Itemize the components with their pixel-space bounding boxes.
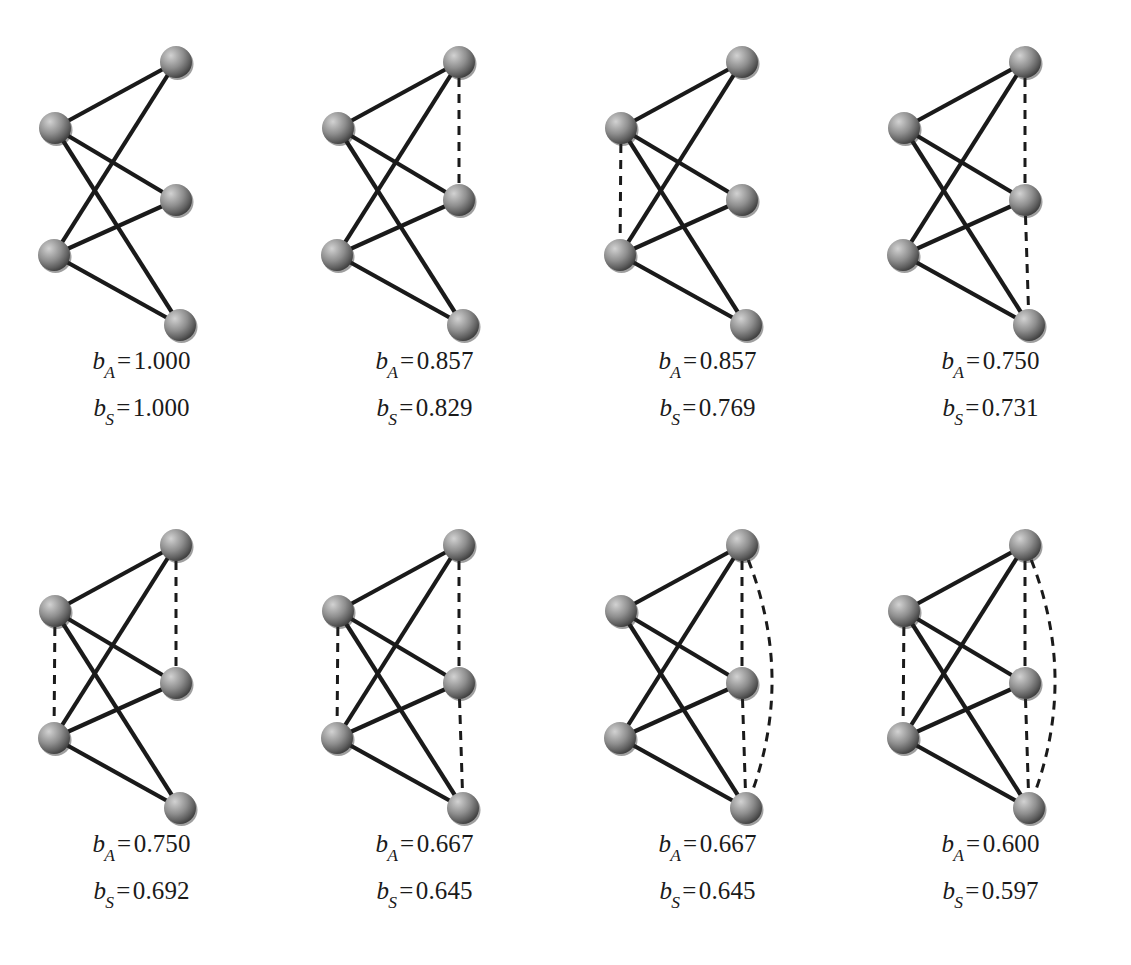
graph-balance-figure: bA=1.000bS=1.000bA=0.857bS=0.829bA=0.857… xyxy=(0,0,1131,965)
equals-sign: = xyxy=(117,830,131,857)
edge-solid-left-upper-top-right xyxy=(55,545,176,611)
edge-solid-left-lower-bottom-right xyxy=(54,738,180,808)
graph-panel-g6: bA=0.667bS=0.645 xyxy=(283,483,566,963)
balance-value: 0.667 xyxy=(417,830,474,857)
balance-subscript: A xyxy=(670,845,681,865)
edge-solid-left-lower-bottom-right xyxy=(620,255,746,325)
edge-solid-left-upper-right-middle xyxy=(55,128,176,200)
graph-node-left-upper xyxy=(888,112,922,146)
equals-sign: = xyxy=(683,347,697,374)
balance-value: 0.750 xyxy=(983,347,1040,374)
edge-dashed-right-middle-bottom-right xyxy=(459,683,463,808)
graph-node-left-lower xyxy=(887,722,921,756)
balance-value: 0.829 xyxy=(416,394,473,421)
balance-subscript: S xyxy=(954,409,963,429)
edge-dashed-left-upper-left-lower xyxy=(54,611,55,738)
balance-label-s-g2: bS=0.829 xyxy=(283,395,566,426)
equals-sign: = xyxy=(965,394,979,421)
graph-node-left-lower xyxy=(321,239,355,273)
balance-subscript: A xyxy=(953,362,964,382)
graph-node-left-lower xyxy=(604,239,638,273)
graph-labels-g8: bA=0.600bS=0.597 xyxy=(849,831,1131,908)
graph-node-right-middle xyxy=(1009,184,1043,218)
graph-panel-g2: bA=0.857bS=0.829 xyxy=(283,0,566,480)
graph-node-bottom-right xyxy=(164,792,198,826)
edge-dashed-right-middle-bottom-right xyxy=(742,683,746,808)
balance-subscript: S xyxy=(671,892,680,912)
edge-solid-left-upper-right-middle xyxy=(338,611,459,683)
balance-subscript: S xyxy=(105,892,114,912)
graph-canvas-g6 xyxy=(283,483,566,843)
equals-sign: = xyxy=(966,347,980,374)
graph-node-left-upper xyxy=(322,595,356,629)
equals-sign: = xyxy=(116,877,130,904)
balance-subscript: A xyxy=(953,845,964,865)
graph-node-left-lower xyxy=(604,722,638,756)
equals-sign: = xyxy=(399,394,413,421)
balance-label-a-g5: bA=0.750 xyxy=(0,831,283,862)
graph-node-top-right xyxy=(160,46,194,80)
balance-label-s-g5: bS=0.692 xyxy=(0,878,283,909)
graph-canvas-g4 xyxy=(849,0,1131,360)
balance-value: 0.857 xyxy=(417,347,474,374)
graph-node-bottom-right xyxy=(447,792,481,826)
graph-labels-g3: bA=0.857bS=0.769 xyxy=(566,348,849,425)
edge-solid-left-upper-right-middle xyxy=(904,611,1025,683)
graph-node-left-lower xyxy=(38,239,72,273)
edge-solid-left-lower-bottom-right xyxy=(903,255,1029,325)
graph-node-top-right xyxy=(443,529,477,563)
graph-node-left-upper xyxy=(39,112,73,146)
balance-label-a-g3: bA=0.857 xyxy=(566,348,849,379)
graph-node-right-middle xyxy=(160,184,194,218)
balance-subscript: A xyxy=(387,845,398,865)
graph-labels-g2: bA=0.857bS=0.829 xyxy=(283,348,566,425)
balance-value: 0.645 xyxy=(699,877,756,904)
graph-node-left-lower xyxy=(38,722,72,756)
graph-node-right-middle xyxy=(726,184,760,218)
graph-canvas-g8 xyxy=(849,483,1131,843)
balance-value: 0.645 xyxy=(416,877,473,904)
edge-dashed-right-middle-bottom-right xyxy=(1025,200,1029,325)
graph-node-left-upper xyxy=(605,595,639,629)
balance-label-s-g4: bS=0.731 xyxy=(849,395,1131,426)
graph-labels-g4: bA=0.750bS=0.731 xyxy=(849,348,1131,425)
graph-node-top-right xyxy=(726,529,760,563)
graph-canvas-g1 xyxy=(0,0,283,360)
graph-diagram-g7 xyxy=(566,483,849,843)
balance-value: 1.000 xyxy=(134,347,191,374)
graph-canvas-g7 xyxy=(566,483,849,843)
graph-node-right-middle xyxy=(443,667,477,701)
balance-subscript: A xyxy=(670,362,681,382)
balance-label-a-g7: bA=0.667 xyxy=(566,831,849,862)
graph-node-bottom-right xyxy=(1013,309,1047,343)
balance-subscript: S xyxy=(388,409,397,429)
edge-solid-left-upper-top-right xyxy=(904,545,1025,611)
balance-value: 0.692 xyxy=(133,877,190,904)
equals-sign: = xyxy=(682,877,696,904)
balance-subscript: S xyxy=(671,409,680,429)
edge-solid-left-upper-right-middle xyxy=(904,128,1025,200)
graph-canvas-g2 xyxy=(283,0,566,360)
edge-solid-left-upper-right-middle xyxy=(621,128,742,200)
graph-node-left-upper xyxy=(605,112,639,146)
balance-label-s-g1: bS=1.000 xyxy=(0,395,283,426)
graph-node-right-middle xyxy=(1009,667,1043,701)
graph-canvas-g3 xyxy=(566,0,849,360)
graph-node-right-middle xyxy=(726,667,760,701)
edge-solid-left-upper-top-right xyxy=(338,545,459,611)
edge-solid-left-upper-top-right xyxy=(621,62,742,128)
graph-diagram-g8 xyxy=(849,483,1131,843)
edge-dashed-left-upper-left-lower xyxy=(337,611,338,738)
graph-panel-g8: bA=0.600bS=0.597 xyxy=(849,483,1131,963)
balance-subscript: S xyxy=(105,409,114,429)
graph-node-left-lower xyxy=(887,239,921,273)
balance-label-a-g2: bA=0.857 xyxy=(283,348,566,379)
graph-diagram-g4 xyxy=(849,0,1131,360)
balance-label-a-g8: bA=0.600 xyxy=(849,831,1131,862)
graph-panel-g1: bA=1.000bS=1.000 xyxy=(0,0,283,480)
balance-value: 1.000 xyxy=(133,394,190,421)
equals-sign: = xyxy=(116,394,130,421)
balance-label-s-g8: bS=0.597 xyxy=(849,878,1131,909)
balance-label-a-g6: bA=0.667 xyxy=(283,831,566,862)
equals-sign: = xyxy=(399,877,413,904)
